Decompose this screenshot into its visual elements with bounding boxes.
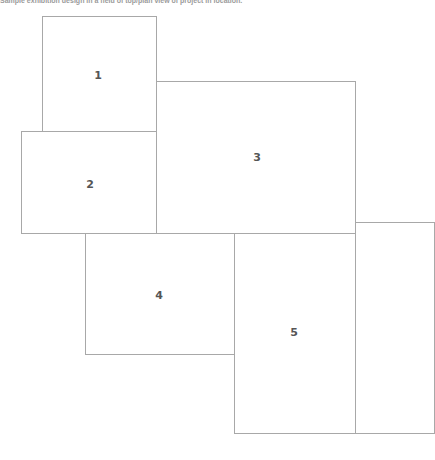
area-label-4: 4 (155, 289, 163, 302)
area-label-2: 2 (86, 178, 94, 191)
area-label-1: 1 (94, 69, 102, 82)
area-box-6-partial (355, 222, 435, 434)
area-label-3: 3 (253, 151, 261, 164)
diagram-caption: Sample exhibition design in a field of t… (0, 0, 330, 5)
area-label-5: 5 (290, 326, 298, 339)
